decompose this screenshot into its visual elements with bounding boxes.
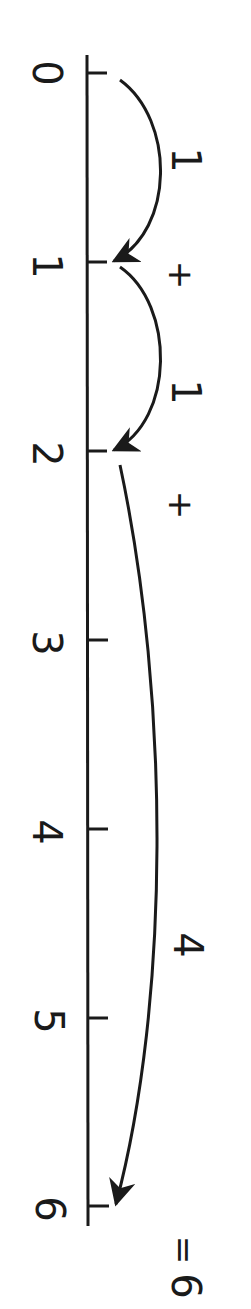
jump-arrow-1-to-2 (114, 267, 161, 450)
jump-label-4: 4 (165, 932, 211, 957)
plus-sign-2: + (161, 491, 201, 520)
tick-labels: 0 1 2 3 4 5 6 (24, 60, 73, 1221)
jump-label-1b: 1 (163, 379, 209, 404)
tick-marks (87, 73, 109, 1206)
jump-arrow-2-to-6 (116, 465, 157, 1204)
plus-sign-1: + (161, 261, 201, 290)
tick-label-1: 1 (24, 253, 70, 278)
result-value: 6 (163, 1273, 209, 1298)
tick-label-4: 4 (24, 819, 70, 844)
number-line-diagram: 0 1 2 3 4 5 6 1 1 4 + + = 6 (0, 0, 251, 1309)
result: = 6 (163, 1236, 209, 1299)
jump-label-1a: 1 (163, 147, 209, 172)
equals-sign: = (164, 1236, 204, 1265)
jump-arrow-0-to-1 (114, 80, 161, 261)
tick-label-3: 3 (24, 630, 70, 655)
jump-arrows (114, 80, 161, 1204)
tick-label-2: 2 (24, 441, 70, 466)
tick-label-0: 0 (24, 60, 70, 85)
tick-label-5: 5 (26, 1008, 72, 1033)
tick-label-6: 6 (27, 1196, 73, 1221)
